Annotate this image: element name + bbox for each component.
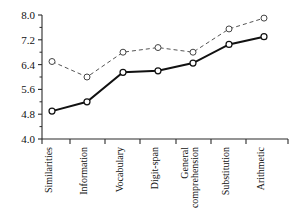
data-point-marker (190, 49, 196, 55)
y-tick-label: 4.8 (21, 108, 35, 120)
data-point-marker (155, 45, 161, 51)
data-point-marker (261, 15, 267, 21)
data-point-marker (120, 69, 126, 75)
x-category-label: Information (78, 147, 89, 195)
x-category-label: Arithmetic (255, 146, 266, 190)
data-point-marker (84, 74, 90, 80)
line-chart: 8.07.26.45.64.84.0 SimilaritiesInformati… (0, 0, 305, 221)
data-point-marker (226, 41, 232, 47)
y-axis: 8.07.26.45.64.84.0 (21, 9, 42, 145)
data-series-group (49, 15, 267, 114)
x-category-label: Digit-span (149, 147, 160, 189)
data-point-marker (49, 59, 55, 65)
data-point-marker (49, 108, 55, 114)
data-point-marker (226, 26, 232, 32)
data-point-marker (155, 68, 161, 74)
x-category-label: Vocabulary (114, 147, 125, 192)
x-category-labels: SimilaritiesInformationVocabularyDigit-s… (43, 146, 266, 208)
x-category-label: Substitution (220, 147, 231, 195)
data-point-marker (120, 49, 126, 55)
x-category-label: Similarities (43, 147, 54, 193)
chart-container: 8.07.26.45.64.84.0 SimilaritiesInformati… (0, 0, 305, 221)
y-tick-label: 4.0 (21, 133, 35, 145)
data-point-marker (261, 34, 267, 40)
data-point-marker (190, 60, 196, 66)
y-tick-label: 8.0 (21, 9, 35, 21)
data-point-marker (84, 99, 90, 105)
y-tick-label: 6.4 (21, 59, 35, 71)
x-category-label: comprehension (189, 147, 200, 208)
y-tick-label: 5.6 (21, 83, 35, 95)
y-tick-label: 7.2 (21, 34, 35, 46)
x-axis (42, 139, 288, 144)
